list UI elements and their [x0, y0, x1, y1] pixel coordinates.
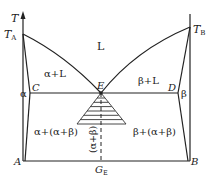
axis-arrow-icon	[21, 11, 26, 19]
region-beta-eutectic: β+(α+β)	[133, 126, 176, 137]
solidus-right	[178, 27, 190, 93]
region-alpha: α	[20, 88, 27, 99]
label-D: D	[167, 82, 176, 93]
axis-label-T: T	[11, 12, 20, 25]
phase-diagram: T TA TB C D E A B GE L α+L β+L α β α+(α+…	[0, 0, 216, 182]
region-liquid: L	[97, 40, 105, 53]
label-TA: TA	[4, 28, 17, 42]
region-beta-liquid: β+L	[138, 75, 159, 86]
solidus-left	[23, 34, 30, 93]
region-eutectic: (α+β)	[87, 126, 98, 153]
label-E: E	[96, 80, 105, 91]
label-A: A	[13, 156, 21, 167]
label-GE: GE	[95, 164, 108, 177]
eutectic-point-dot	[99, 91, 103, 95]
region-alpha-liquid: α+L	[44, 68, 66, 79]
solvus-right	[178, 93, 188, 161]
region-beta: β	[181, 88, 187, 99]
label-B: B	[190, 156, 198, 167]
solvus-left	[25, 93, 30, 161]
label-C: C	[32, 82, 40, 93]
label-TB: TB	[193, 23, 206, 37]
region-alpha-eutectic: α+(α+β)	[34, 126, 78, 137]
